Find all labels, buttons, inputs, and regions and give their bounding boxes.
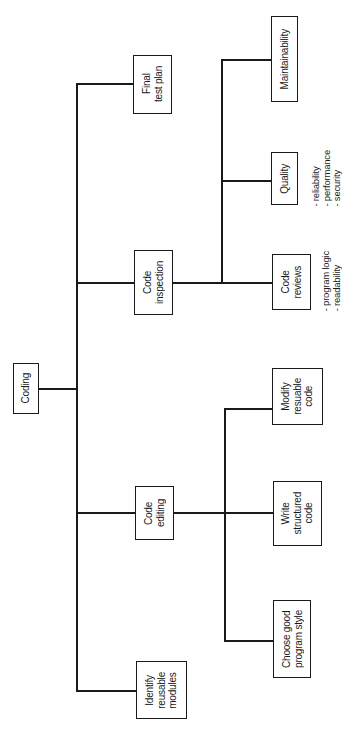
node-write-structured-code: Write structured code [273,481,322,546]
node-maintainability: Maintainability [271,16,298,102]
connector-coding-trunk [38,388,77,390]
code-reviews-notes: - program logic - readability [321,245,347,317]
node-label: Coding [20,373,32,404]
node-label: Final test plan [141,66,164,102]
connector-final-test-plan [76,83,134,85]
node-code-editing: Code editing [135,486,174,540]
node-code-inspection: Code inspection [134,250,173,315]
inspection-branch-trunk [221,59,223,283]
node-label: Modify resuable code [280,378,315,415]
node-label: Identify reusable modules [144,672,179,709]
connector-maintainability [221,59,272,61]
quality-notes-text: - reliability - performance - security [311,150,343,207]
node-code-reviews: Code reviews [272,254,311,310]
coding-hierarchy-diagram: Coding Final test plan Code inspection C… [0,0,363,730]
node-label: Code inspection [142,261,165,304]
node-quality: Quality [271,152,298,205]
node-modify-reusable-code: Modify resuable code [272,368,323,425]
connector-choose-good-program-style [224,640,274,642]
connector-quality [221,180,272,182]
code-reviews-notes-text: - program logic - readability [321,251,342,311]
node-label: Code reviews [280,266,303,299]
connector-write-structured-code [224,512,274,514]
connector-code-inspection [76,282,135,284]
connector-code-editing [76,512,136,514]
node-final-test-plan: Final test plan [133,55,172,114]
connector-identify-reusable-modules [76,690,137,692]
quality-notes: - reliability - performance - security [311,148,347,208]
connector-code-reviews [221,282,273,284]
editing-branch-trunk [224,408,226,641]
connector-modify-reusable-code [224,408,273,410]
node-coding: Coding [13,363,39,414]
node-choose-good-program-style: Choose good program style [273,600,311,678]
node-label: Quality [279,164,291,194]
node-label: Code editing [143,499,166,527]
main-trunk [76,83,78,691]
connector-inspection-branch [172,282,222,284]
node-identify-reusable-modules: Identify reusable modules [136,661,187,719]
node-label: Write structured code [280,492,315,534]
node-label: Choose good program style [281,610,304,668]
node-label: Maintainability [279,29,291,89]
connector-editing-branch [173,512,225,514]
